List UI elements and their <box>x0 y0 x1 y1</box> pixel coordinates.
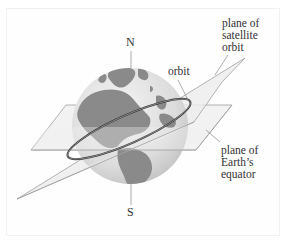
satellite-plane-label-line2: satellite <box>222 30 258 41</box>
satellite-plane-label-line1: plane of <box>222 18 259 29</box>
south-label: S <box>127 207 134 218</box>
equator-plane-label-line3: equator <box>221 169 255 180</box>
equator-plane-label-line1: plane of <box>221 145 258 156</box>
diagram-canvas: N S orbit plane of satellite orbit plane… <box>0 0 286 244</box>
equator-plane-label-line2: Earth’s <box>221 157 254 168</box>
north-label: N <box>126 37 135 48</box>
satellite-plane-label-line3: orbit <box>222 42 244 53</box>
orbit-label: orbit <box>168 66 190 77</box>
equator-plane-leader-line <box>206 130 220 142</box>
